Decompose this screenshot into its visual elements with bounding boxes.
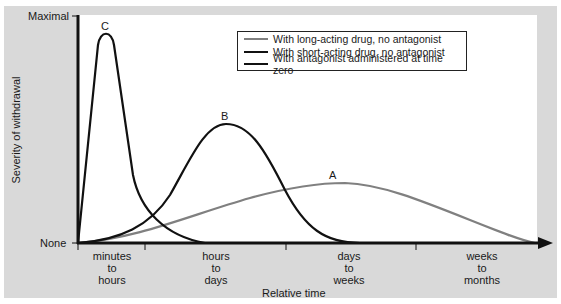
x-category-2: days to weeks [327, 250, 371, 286]
legend-swatch-black [244, 63, 268, 65]
x-category-1: hours to days [194, 250, 238, 286]
x-axis-title: Relative time [262, 287, 326, 299]
y-min-label: None [40, 237, 66, 249]
legend-label: With antagonist administered at time zer… [273, 52, 466, 76]
legend: With long-acting drug, no antagonist Wit… [237, 31, 467, 71]
curve-label-a: A [329, 169, 336, 181]
legend-swatch-gray [244, 38, 268, 40]
legend-swatch-black [244, 51, 268, 53]
legend-item-long-acting: With long-acting drug, no antagonist [244, 33, 466, 46]
y-max-label: Maximal [28, 10, 69, 22]
curve-c-antagonist [78, 34, 205, 243]
legend-label: With long-acting drug, no antagonist [273, 33, 441, 45]
y-axis-title: Severity of withdrawal [10, 72, 22, 188]
curve-a-long-acting [78, 183, 535, 243]
legend-item-antagonist: With antagonist administered at time zer… [244, 58, 466, 71]
x-axis-arrowhead-icon [538, 237, 553, 249]
curve-label-c: C [101, 20, 109, 32]
curve-label-b: B [221, 110, 228, 122]
x-category-3: weeks to months [457, 250, 507, 286]
x-category-0: minutes to hours [90, 250, 134, 286]
